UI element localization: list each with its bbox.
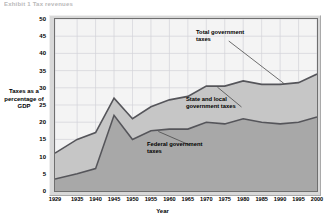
y-tick-20: 20 [24,119,46,125]
y-tick-30: 30 [24,85,46,91]
annotation-state-local-taxes: State and local government taxes [186,96,236,110]
leader-total [229,41,284,83]
annotation-state-line1: State and local [186,96,227,102]
annotation-total-line2: taxes [196,36,211,42]
y-tick-40: 40 [24,50,46,56]
y-tick-15: 15 [24,136,46,142]
y-tick-25: 25 [24,102,46,108]
annotation-federal-taxes: Federal government taxes [147,141,202,155]
x-axis-title: Year [0,208,325,214]
chart-screenshot: Exhibit 1 Tax revenues Taxes as a percen… [0,0,325,222]
y-tick-45: 45 [24,33,46,39]
y-tick-0: 0 [24,188,46,194]
y-tick-35: 35 [24,68,46,74]
annotation-total-line1: Total government [196,29,244,35]
x-tick-1929: 1929 [43,196,67,202]
annotation-state-line2: government taxes [186,103,236,109]
y-tick-5: 5 [24,171,46,177]
y-tick-50: 50 [24,16,46,22]
annotation-federal-line2: taxes [147,148,162,154]
y-tick-10: 10 [24,154,46,160]
headline-title: Exhibit 1 Tax revenues [4,0,73,7]
annotation-total-government-taxes: Total government taxes [196,29,244,43]
x-tick-2000: 2000 [305,196,325,202]
annotation-federal-line1: Federal government [147,141,202,147]
